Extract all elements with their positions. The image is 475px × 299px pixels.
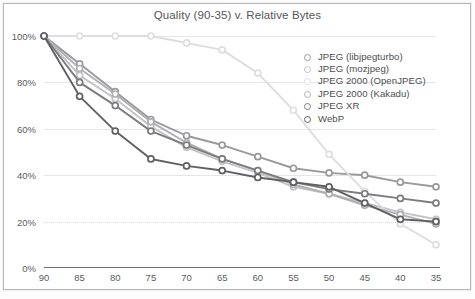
legend-item: JPEG (mozjpeg) [300, 62, 450, 74]
data-point [326, 170, 332, 176]
legend-marker-circle-icon [300, 112, 313, 124]
x-tick-label: 90 [39, 272, 50, 283]
legend-item: WebP [300, 112, 450, 124]
x-tick-label: 45 [359, 272, 370, 283]
y-tick-label: 100% [12, 31, 36, 42]
data-point [112, 33, 118, 39]
data-point [433, 242, 439, 248]
data-point [397, 179, 403, 185]
data-point [397, 195, 403, 201]
x-tick-label: 55 [288, 272, 299, 283]
data-point [77, 33, 83, 39]
legend-item: JPEG (libjpegturbo) [300, 50, 450, 62]
x-tick-label: 40 [395, 272, 406, 283]
chart-legend: JPEG (libjpegturbo)JPEG (mozjpeg)JPEG 20… [300, 50, 450, 124]
data-point [219, 47, 225, 53]
data-point [255, 70, 261, 76]
chart-page: Quality (90-35) v. Relative Bytes 0%20%4… [0, 0, 475, 299]
legend-item-label: JPEG (mozjpeg) [318, 63, 389, 74]
legend-item-label: JPEG (libjpegturbo) [318, 51, 403, 62]
x-tick-label: 50 [324, 272, 335, 283]
x-tick-label: 65 [217, 272, 228, 283]
x-tick-label: 70 [181, 272, 192, 283]
data-point [112, 103, 118, 109]
data-point [433, 219, 439, 225]
y-axis-labels: 0%20%40%60%80%100% [0, 36, 40, 268]
x-tick-label: 60 [253, 272, 264, 283]
data-point [362, 191, 368, 197]
data-point [77, 93, 83, 99]
legend-marker-circle-icon [300, 75, 313, 87]
legend-item: JPEG 2000 (OpenJPEG) [300, 75, 450, 87]
data-point [77, 65, 83, 71]
data-point [184, 142, 190, 148]
data-point [184, 40, 190, 46]
chart-title: Quality (90-35) v. Relative Bytes [0, 9, 475, 21]
data-point [219, 168, 225, 174]
x-tick-label: 75 [146, 272, 157, 283]
data-point [433, 184, 439, 190]
data-point [184, 163, 190, 169]
data-point [362, 172, 368, 178]
data-point [112, 91, 118, 97]
x-tick-label: 85 [74, 272, 85, 283]
data-point [77, 72, 83, 78]
data-point [41, 33, 47, 39]
legend-marker-circle-icon [300, 63, 313, 75]
legend-item: JPEG XR [300, 100, 450, 112]
data-point [112, 128, 118, 134]
data-point [255, 175, 261, 181]
legend-item: JPEG 2000 (Kakadu) [300, 87, 450, 99]
data-point [148, 33, 154, 39]
data-point [148, 156, 154, 162]
data-point [148, 119, 154, 125]
y-tick-label: 80% [17, 77, 36, 88]
data-point [148, 128, 154, 134]
data-point [326, 151, 332, 157]
data-point [362, 200, 368, 206]
y-tick-label: 20% [17, 216, 36, 227]
data-point [219, 142, 225, 148]
data-point [290, 179, 296, 185]
legend-marker-circle-icon [300, 100, 313, 112]
data-point [397, 216, 403, 222]
legend-item-label: WebP [318, 113, 344, 124]
y-tick-label: 60% [17, 123, 36, 134]
legend-item-label: JPEG 2000 (OpenJPEG) [318, 75, 426, 86]
x-tick-label: 80 [110, 272, 121, 283]
y-tick-label: 0% [22, 263, 36, 274]
data-point [290, 107, 296, 113]
legend-marker-circle-icon [300, 50, 313, 62]
y-tick-label: 40% [17, 170, 36, 181]
x-axis-labels: 908580757065605550454035 [44, 270, 436, 290]
data-point [326, 184, 332, 190]
data-point [255, 154, 261, 160]
data-point [290, 165, 296, 171]
x-tick-label: 35 [431, 272, 442, 283]
legend-item-label: JPEG 2000 (Kakadu) [318, 88, 410, 99]
data-point [77, 79, 83, 85]
data-point [255, 168, 261, 174]
legend-item-label: JPEG XR [318, 100, 359, 111]
data-point [433, 200, 439, 206]
data-point [184, 133, 190, 139]
data-point [219, 156, 225, 162]
legend-marker-circle-icon [300, 87, 313, 99]
x-axis-line [44, 267, 440, 268]
